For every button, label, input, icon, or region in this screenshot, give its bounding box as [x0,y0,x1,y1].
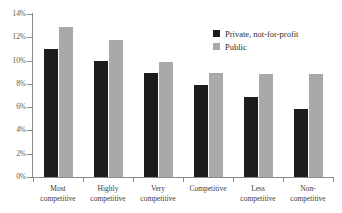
legend-swatch-icon [213,43,220,50]
legend-label: Private, not-for-profit [225,29,298,39]
legend-swatch-icon [213,30,220,37]
y-axis-tick-label: 14% [2,9,26,18]
legend-item: Public [213,40,298,53]
bar-chart: 0%2%4%6%8%10%12%14% MostcompetitiveHighl… [0,0,342,213]
x-axis-tick [83,177,84,182]
bar-private [44,49,58,177]
category-label-line: competitive [277,194,339,204]
bar-private [244,97,258,177]
bar-private [294,109,308,177]
bar-private [194,85,208,177]
x-axis-tick [283,177,284,182]
x-axis-tick [333,177,334,182]
legend-label: Public [225,42,247,52]
y-axis-tick-label: 0% [2,172,26,181]
x-axis-tick [133,177,134,182]
category-label-line: competitive [127,194,189,204]
y-axis-tick-label: 12% [2,32,26,41]
y-axis-tick-label: 10% [2,56,26,65]
bar-private [94,61,108,177]
bar-public [259,74,273,177]
bar-public [309,74,323,177]
x-axis-category-label: Non-competitive [277,184,339,203]
bar-private [144,73,158,177]
x-axis-tick [233,177,234,182]
x-axis-tick [33,177,34,182]
y-axis-tick-label: 2% [2,149,26,158]
bar-public [159,62,173,177]
bar-public [59,27,73,177]
bar-public [209,73,223,177]
bar-public [109,40,123,177]
category-label-line: Non- [277,184,339,194]
chart-legend: Private, not-for-profitPublic [213,27,298,53]
y-axis-tick-label: 6% [2,102,26,111]
x-axis-tick [183,177,184,182]
legend-item: Private, not-for-profit [213,27,298,40]
y-axis-tick-label: 8% [2,79,26,88]
y-axis-tick-label: 4% [2,125,26,134]
